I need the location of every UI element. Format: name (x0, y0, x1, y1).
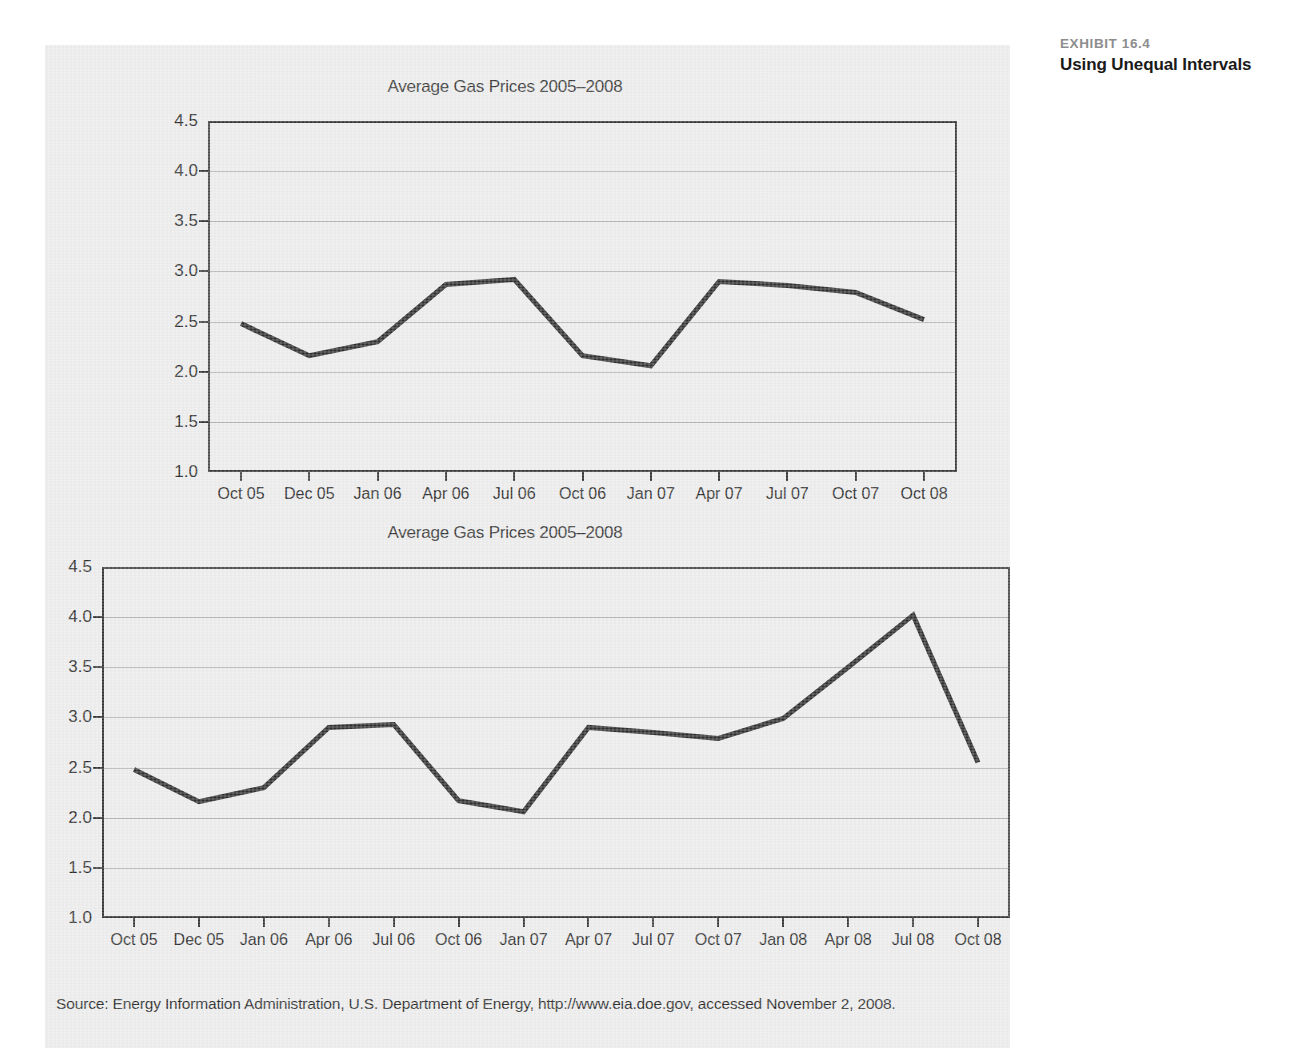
x-axis-tick (263, 916, 265, 927)
y-axis-tick (93, 767, 104, 769)
gridline (210, 271, 955, 272)
y-axis-label: 4.0 (40, 607, 92, 627)
gridline (210, 422, 955, 423)
gridline (210, 322, 955, 323)
y-axis-label: 1.5 (40, 858, 92, 878)
x-axis-tick (133, 916, 135, 927)
x-axis-label: Oct 08 (900, 485, 947, 503)
x-axis-tick (513, 470, 515, 481)
x-axis-label: Dec 05 (284, 485, 335, 503)
x-axis-label: Oct 05 (110, 931, 157, 949)
y-axis-label: 3.5 (40, 657, 92, 677)
x-axis-tick (445, 470, 447, 481)
exhibit-panel: Average Gas Prices 2005–2008 4.54.03.53.… (45, 45, 1010, 1048)
x-axis-label: Jan 06 (240, 931, 288, 949)
y-axis-tick (93, 817, 104, 819)
gridline (104, 667, 1008, 668)
x-axis-tick (458, 916, 460, 927)
x-axis-tick (587, 916, 589, 927)
x-axis-tick (912, 916, 914, 927)
gridline (104, 717, 1008, 718)
x-axis-label: Apr 06 (422, 485, 469, 503)
x-axis-tick (198, 916, 200, 927)
x-axis-label: Oct 06 (559, 485, 606, 503)
x-axis-label: Oct 05 (217, 485, 264, 503)
x-axis-label: Jul 08 (892, 931, 935, 949)
x-axis-label: Jul 06 (372, 931, 415, 949)
x-axis-label: Apr 08 (825, 931, 872, 949)
source-note: Source: Energy Information Administratio… (56, 995, 896, 1013)
gridline (104, 768, 1008, 769)
x-axis-label: Oct 07 (832, 485, 879, 503)
y-axis-tick (199, 220, 210, 222)
x-axis-label: Oct 06 (435, 931, 482, 949)
x-axis-tick (718, 470, 720, 481)
y-axis-tick (93, 666, 104, 668)
x-axis-label: Oct 07 (695, 931, 742, 949)
y-axis-label: 4.0 (146, 161, 198, 181)
x-axis-tick (855, 470, 857, 481)
chart-bottom-title: Average Gas Prices 2005–2008 (45, 523, 965, 543)
x-axis-label: Dec 05 (174, 931, 225, 949)
y-axis-tick (199, 371, 210, 373)
x-axis-label: Jan 07 (627, 485, 675, 503)
x-axis-tick (308, 470, 310, 481)
chart-top: Average Gas Prices 2005–2008 4.54.03.53.… (45, 45, 1010, 495)
y-axis-tick (93, 716, 104, 718)
y-axis-tick (199, 170, 210, 172)
y-axis-label: 1.0 (146, 462, 198, 482)
x-axis-tick (240, 470, 242, 481)
y-axis-tick (93, 867, 104, 869)
y-axis-label: 1.5 (146, 412, 198, 432)
y-axis-tick (199, 321, 210, 323)
x-axis-label: Jan 08 (759, 931, 807, 949)
x-axis-tick (523, 916, 525, 927)
y-axis-label: 4.5 (40, 557, 92, 577)
x-axis-tick (582, 470, 584, 481)
x-axis-tick (377, 470, 379, 481)
y-axis-label: 3.0 (146, 261, 198, 281)
gridline (210, 372, 955, 373)
y-axis-label: 3.5 (146, 211, 198, 231)
x-axis-label: Jan 07 (500, 931, 548, 949)
x-axis-tick (717, 916, 719, 927)
chart-top-title: Average Gas Prices 2005–2008 (45, 77, 965, 97)
x-axis-label: Apr 06 (305, 931, 352, 949)
x-axis-label: Apr 07 (565, 931, 612, 949)
gridline (210, 221, 955, 222)
x-axis-label: Jul 06 (493, 485, 536, 503)
x-axis-label: Apr 07 (696, 485, 743, 503)
x-axis-tick (923, 470, 925, 481)
chart-top-plot-area (208, 121, 957, 472)
x-axis-label: Jul 07 (632, 931, 675, 949)
y-axis-label: 4.5 (146, 111, 198, 131)
exhibit-number: EXHIBIT 16.4 (1060, 36, 1284, 51)
y-axis-tick (199, 421, 210, 423)
exhibit-header: EXHIBIT 16.4 Using Unequal Intervals (1060, 36, 1284, 75)
x-axis-tick (786, 470, 788, 481)
y-axis-label: 2.5 (146, 312, 198, 332)
y-axis-label: 1.0 (40, 908, 92, 928)
x-axis-tick (782, 916, 784, 927)
x-axis-tick (847, 916, 849, 927)
x-axis-tick (393, 916, 395, 927)
y-axis-tick (199, 270, 210, 272)
x-axis-tick (650, 470, 652, 481)
x-axis-label: Jul 07 (766, 485, 809, 503)
y-axis-label: 2.0 (146, 362, 198, 382)
y-axis-label: 2.0 (40, 808, 92, 828)
gridline (210, 171, 955, 172)
x-axis-label: Oct 08 (954, 931, 1001, 949)
exhibit-title: Using Unequal Intervals (1060, 55, 1284, 75)
x-axis-tick (328, 916, 330, 927)
y-axis-label: 3.0 (40, 707, 92, 727)
y-axis-label: 2.5 (40, 758, 92, 778)
x-axis-tick (977, 916, 979, 927)
x-axis-tick (652, 916, 654, 927)
chart-bottom-plot-area (102, 567, 1010, 918)
gridline (104, 868, 1008, 869)
gridline (104, 818, 1008, 819)
credit-container: COURTESY, ENERGY INFORMATION SERVICE, U.… (1019, 598, 1041, 970)
chart-bottom: Average Gas Prices 2005–2008 4.54.03.53.… (45, 505, 1010, 1005)
y-axis-tick (93, 616, 104, 618)
